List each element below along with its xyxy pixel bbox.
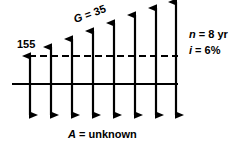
present-value-label: 155 (17, 39, 35, 50)
interest-rate-label: i = 6% (189, 45, 221, 56)
down-arrow-group (30, 84, 176, 115)
cash-flow-diagram: 155 G = 35 n = 8 yr i = 6% A = unknown (0, 0, 241, 149)
annual-amount-label: A = unknown (68, 129, 137, 140)
diagram-canvas (0, 0, 241, 149)
periods-label: n = 8 yr (189, 29, 228, 40)
